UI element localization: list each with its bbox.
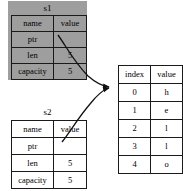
struct-s1-title: s1: [8, 1, 87, 15]
buffer-row-2-index: 2: [119, 120, 151, 138]
struct-s2-header-name: name: [12, 121, 54, 138]
struct-s2-row-len-key: len: [12, 155, 54, 172]
buffer-row-1-index: 1: [119, 102, 151, 120]
struct-s1-row-ptr-key: ptr: [12, 32, 54, 48]
table-row: index value: [119, 66, 183, 84]
table-row: ptr: [12, 32, 87, 48]
table-row: len 5: [12, 155, 87, 172]
table-row: name value: [12, 16, 87, 32]
buffer-row-0-value: h: [151, 84, 183, 102]
struct-s1-row-len-value: 5: [54, 48, 87, 64]
struct-s1-header-value: value: [54, 16, 87, 32]
struct-s2-row-capacity-value: 5: [54, 172, 87, 189]
buffer-row-2-value: l: [151, 120, 183, 138]
table-row: capacity 5: [12, 172, 87, 189]
table-row: 1 e: [119, 102, 183, 120]
struct-s1-row-len-key: len: [12, 48, 54, 64]
struct-s1-header-name: name: [12, 16, 54, 32]
struct-s2-title: s2: [11, 106, 84, 118]
buffer-row-4-value: o: [151, 156, 183, 174]
struct-s1-table: name value ptr len 5 capacity 5: [11, 15, 87, 80]
buffer-row-3-index: 3: [119, 138, 151, 156]
struct-s1-row-capacity-value: 5: [54, 64, 87, 80]
struct-s2-table: name value ptr len 5 capacity 5: [11, 120, 87, 189]
table-row: 2 l: [119, 120, 183, 138]
table-row: len 5: [12, 48, 87, 64]
table-row: 4 o: [119, 156, 183, 174]
table-row: 0 h: [119, 84, 183, 102]
struct-s1-row-capacity-key: capacity: [12, 64, 54, 80]
struct-s2-row-ptr-value: [54, 138, 87, 155]
table-row: 3 l: [119, 138, 183, 156]
struct-s2-row-capacity-key: capacity: [12, 172, 54, 189]
buffer-header-index: index: [119, 66, 151, 84]
table-row: ptr: [12, 138, 87, 155]
buffer-row-3-value: l: [151, 138, 183, 156]
buffer-row-4-index: 4: [119, 156, 151, 174]
struct-s2-row-len-value: 5: [54, 155, 87, 172]
diagram-canvas: s1 name value ptr len 5 capacity 5 s2: [0, 0, 183, 191]
struct-s1-row-ptr-value: [54, 32, 87, 48]
buffer-header-value: value: [151, 66, 183, 84]
buffer-row-0-index: 0: [119, 84, 151, 102]
buffer-row-1-value: e: [151, 102, 183, 120]
buffer-table: index value 0 h 1 e 2 l 3 l 4 o: [118, 65, 183, 174]
struct-s2-row-ptr-key: ptr: [12, 138, 54, 155]
struct-s2-header-value: value: [54, 121, 87, 138]
table-row: name value: [12, 121, 87, 138]
table-row: capacity 5: [12, 64, 87, 80]
